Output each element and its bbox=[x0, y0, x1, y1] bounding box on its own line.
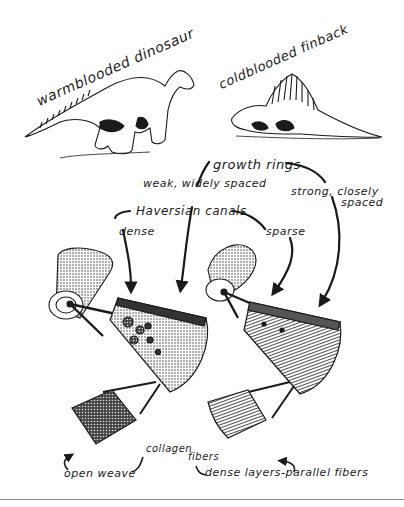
growth-rings-warm-value: weak, widely spaced bbox=[143, 178, 267, 189]
left-fiber-block-icon bbox=[72, 390, 136, 444]
collagen-cold-value: dense layers-parallel fibers bbox=[205, 467, 368, 478]
bottom-divider bbox=[0, 499, 404, 500]
left-femur-bone-icon bbox=[49, 248, 116, 336]
growth-rings-label: growth rings bbox=[213, 158, 301, 171]
hadrosaur-illustration bbox=[25, 71, 194, 158]
growth-rings-cold-value-line2: spaced bbox=[341, 197, 383, 208]
collagen-label: collagen bbox=[146, 444, 192, 454]
haversian-canals-cold-value: sparse bbox=[266, 226, 305, 237]
right-fiber-block-icon bbox=[208, 390, 266, 438]
collagen-warm-value: open weave bbox=[64, 468, 136, 479]
haversian-canals-label: Haversian canals bbox=[136, 205, 247, 217]
dimetrodon-illustration bbox=[232, 74, 382, 139]
left-bone-section-wedge-icon bbox=[103, 298, 208, 414]
right-bone-section-wedge-icon bbox=[240, 302, 341, 418]
diagram-canvas bbox=[0, 0, 404, 507]
fibers-label: fibers bbox=[188, 452, 219, 462]
haversian-canals-warm-value: dense bbox=[119, 226, 155, 237]
